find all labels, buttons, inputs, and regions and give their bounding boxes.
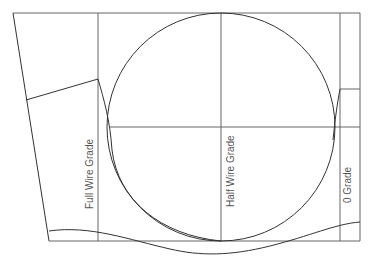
left-slanted-edge [13, 13, 49, 241]
left-profile-curve [98, 79, 221, 241]
zero-grade-label: 0 Grade [342, 166, 353, 203]
bottom-wave-curve [49, 222, 360, 254]
left-shoulder-line [26, 79, 98, 100]
full-wire-grade-label: Full Wire Grade [84, 139, 95, 209]
half-wire-grade-label: Half Wire Grade [225, 135, 236, 207]
wire-grade-diagram: Full Wire Grade Half Wire Grade 0 Grade [0, 0, 374, 266]
